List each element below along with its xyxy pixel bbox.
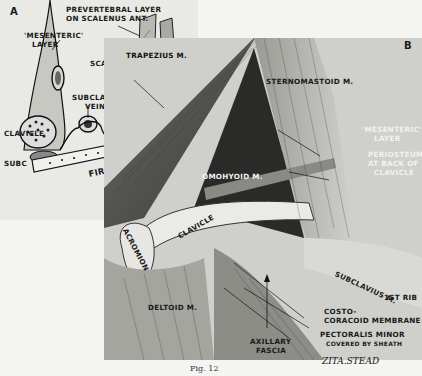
label-mesenteric-layer-2: LAYER: [32, 41, 59, 49]
label-periosteum: PERIOSTEUM: [368, 151, 422, 159]
label-mesenteric-layer-b: 'MESENTERIC': [362, 126, 421, 134]
label-pectoralis-minor: PECTORALIS MINOR: [320, 331, 405, 339]
label-sternomastoid: STERNOMASTOID M.: [266, 78, 353, 86]
label-axillary-fascia: AXILLARY: [250, 338, 291, 346]
label-prevertebral-layer: PREVERTEBRAL LAYER: [66, 6, 161, 14]
panel-b-letter: B: [404, 42, 412, 50]
label-pectoralis-minor-2: COVERED BY SHEATH: [326, 340, 402, 348]
panel-b-illustration: B TRAPEZIUS M. STERNOMASTOID M. OMOHYOID…: [104, 38, 422, 360]
label-costo-coracoid-2: CORACOID MEMBRANE: [324, 317, 421, 325]
label-subclavian-vein-2: VEIN: [85, 103, 105, 111]
figure-caption: Fig. 12: [190, 364, 219, 373]
label-prevertebral-layer-2: ON SCALENUS ANT.: [66, 15, 149, 23]
label-mesenteric-layer: 'MESENTERIC': [24, 32, 83, 40]
label-axillary-fascia-2: FASCIA: [256, 347, 286, 355]
label-first-rib-b: 1ST RIB: [384, 294, 417, 302]
artist-signature: ZITA.STEAD: [322, 356, 379, 366]
label-costo-coracoid: COSTO-: [324, 308, 357, 316]
label-clavicle: CLAVICLE: [4, 130, 44, 138]
panel-a-letter: A: [10, 8, 18, 16]
label-deltoid: DELTOID M.: [148, 304, 197, 312]
label-periosteum-2: AT BACK OF: [368, 160, 419, 168]
label-mesenteric-layer-b-2: LAYER: [374, 135, 401, 143]
label-omohyoid: OMOHYOID M.: [202, 173, 263, 181]
label-subclavius: SUBC: [4, 160, 27, 168]
label-periosteum-3: CLAVICLE: [374, 169, 414, 177]
label-trapezius: TRAPEZIUS M.: [126, 52, 187, 60]
